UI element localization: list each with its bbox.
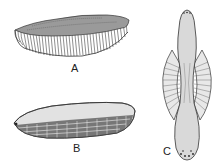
panel-b-illustration [12, 101, 138, 141]
panel-c-label: C [163, 146, 171, 157]
panel-a-illustration [12, 12, 132, 60]
panel-b-label: B [73, 143, 80, 154]
panel-a-label: A [71, 63, 78, 74]
panel-c-illustration [160, 8, 216, 164]
